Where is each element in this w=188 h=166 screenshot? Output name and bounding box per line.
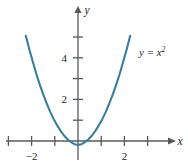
curve-equation-exponent: 2	[162, 45, 166, 54]
y-axis-label: y	[83, 4, 90, 17]
parabola-plot: −2 2 2 4 x y y = x 2	[0, 0, 188, 166]
x-axis-label: x	[176, 135, 183, 147]
x-axis-arrow-icon	[168, 137, 176, 144]
curve-equation-label: y = x 2	[138, 45, 166, 59]
curve-equation-main: y = x	[138, 46, 162, 58]
y-tick-label-4: 4	[62, 52, 68, 64]
graph-figure: −2 2 2 4 x y y = x 2	[0, 0, 188, 166]
x-tick-label-pos2: 2	[122, 150, 128, 162]
y-axis-arrow-icon	[74, 6, 81, 13]
y-tick-label-2: 2	[62, 93, 68, 105]
x-tick-label-neg2: −2	[26, 150, 38, 162]
